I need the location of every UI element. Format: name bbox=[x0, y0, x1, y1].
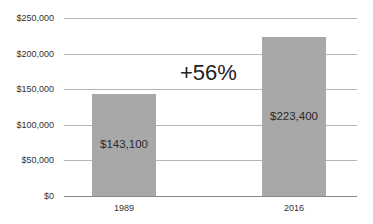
bar-value-label: $143,100 bbox=[92, 138, 156, 150]
percent-change-annotation: +56% bbox=[180, 60, 237, 86]
x-tick-label: 2016 bbox=[262, 203, 326, 213]
y-tick-label: $200,000 bbox=[0, 49, 54, 59]
y-tick-label: $0 bbox=[0, 191, 54, 201]
y-tick-label: $100,000 bbox=[0, 120, 54, 130]
y-tick-label: $150,000 bbox=[0, 84, 54, 94]
y-tick-label: $250,000 bbox=[0, 13, 54, 23]
bar-1989: $143,100 bbox=[92, 94, 156, 196]
x-tick-label: 1989 bbox=[92, 203, 156, 213]
bar-2016: $223,400 bbox=[262, 37, 326, 196]
gridline bbox=[64, 18, 357, 19]
bar-value-label: $223,400 bbox=[262, 110, 326, 122]
y-tick-label: $50,000 bbox=[0, 155, 54, 165]
gridline bbox=[64, 196, 357, 197]
